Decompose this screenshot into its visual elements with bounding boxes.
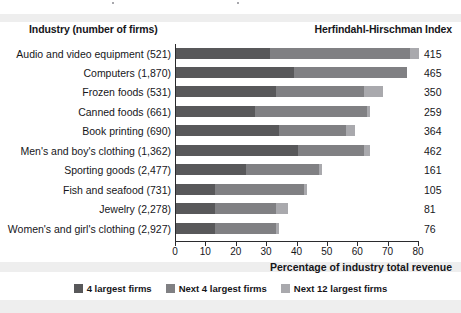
x-axis-tick-label: 60 xyxy=(345,246,369,257)
stacked-bar xyxy=(176,67,407,78)
legend-label: Next 12 largest firms xyxy=(294,283,387,294)
bar-segment-2 xyxy=(215,184,303,195)
table-row: Book printing (690)364 xyxy=(0,123,461,142)
x-axis-label: Percentage of industry total revenue xyxy=(270,261,452,273)
bar-segment-1 xyxy=(176,223,215,234)
bar-segment-3 xyxy=(304,184,307,195)
column-header-hhi: Herfindahl-Hirschman Index xyxy=(315,23,452,38)
bar-segment-2 xyxy=(279,125,346,136)
row-label-industry: Audio and video equipment (521) xyxy=(16,49,171,60)
bar-segment-2 xyxy=(255,106,367,117)
bar-segment-2 xyxy=(294,67,406,78)
stacked-bar xyxy=(176,86,383,97)
bar-segment-2 xyxy=(246,164,319,175)
bar-segment-3 xyxy=(367,106,370,117)
x-axis-tick-label: 50 xyxy=(315,246,339,257)
table-row: Men's and boy's clothing (1,362)462 xyxy=(0,143,461,162)
row-value-hhi: 259 xyxy=(424,107,457,118)
bar-segment-3 xyxy=(276,203,288,214)
row-label-industry: Jewelry (2,278) xyxy=(99,204,171,215)
stacked-bar xyxy=(176,184,307,195)
background-band-footer xyxy=(0,300,461,313)
bar-segment-1 xyxy=(176,184,215,195)
legend-label: 4 largest firms xyxy=(87,283,152,294)
stacked-bar xyxy=(176,164,322,175)
legend-label: Next 4 largest firms xyxy=(179,283,267,294)
row-value-hhi: 105 xyxy=(424,185,457,196)
cropped-title-strip xyxy=(0,0,461,14)
row-label-industry: Fish and seafood (731) xyxy=(63,185,171,196)
bar-segment-2 xyxy=(298,145,365,156)
bar-segment-1 xyxy=(176,145,298,156)
legend-item: Next 4 largest firms xyxy=(166,283,267,294)
legend-item: 4 largest firms xyxy=(74,283,152,294)
table-row: Frozen foods (531)350 xyxy=(0,84,461,103)
row-label-industry: Canned foods (661) xyxy=(78,107,171,118)
x-axis-tick-label: 70 xyxy=(376,246,400,257)
stacked-bar xyxy=(176,125,355,136)
bar-segment-1 xyxy=(176,86,276,97)
bar-segment-2 xyxy=(276,86,364,97)
bar-segment-1 xyxy=(176,164,246,175)
stacked-bar xyxy=(176,203,288,214)
row-value-hhi: 415 xyxy=(424,49,457,60)
row-value-hhi: 81 xyxy=(424,204,457,215)
bar-segment-3 xyxy=(276,223,279,234)
bar-segment-2 xyxy=(215,223,276,234)
table-row: Women's and girl's clothing (2,927)76 xyxy=(0,221,461,240)
x-axis-tick-label: 10 xyxy=(193,246,217,257)
background-band-top xyxy=(0,14,461,22)
bar-segment-3 xyxy=(346,125,355,136)
table-row: Sporting goods (2,477)161 xyxy=(0,162,461,181)
bar-segment-1 xyxy=(176,67,294,78)
chart-legend: 4 largest firmsNext 4 largest firmsNext … xyxy=(0,283,461,294)
table-row: Fish and seafood (731)105 xyxy=(0,182,461,201)
legend-swatch-icon xyxy=(281,284,290,293)
row-label-industry: Computers (1,870) xyxy=(83,68,171,79)
row-value-hhi: 350 xyxy=(424,87,457,98)
bar-segment-1 xyxy=(176,106,255,117)
row-value-hhi: 364 xyxy=(424,126,457,137)
row-value-hhi: 161 xyxy=(424,165,457,176)
stacked-bar xyxy=(176,106,370,117)
bar-segment-1 xyxy=(176,125,279,136)
stacked-bar xyxy=(176,145,370,156)
legend-item: Next 12 largest firms xyxy=(281,283,387,294)
bar-segment-3 xyxy=(364,145,370,156)
legend-swatch-icon xyxy=(74,284,83,293)
x-axis-tick-label: 0 xyxy=(163,246,187,257)
concentration-chart: Industry (number of firms) Herfindahl-Hi… xyxy=(0,0,461,313)
column-header-industry: Industry (number of firms) xyxy=(29,23,158,38)
row-value-hhi: 462 xyxy=(424,146,457,157)
row-label-industry: Men's and boy's clothing (1,362) xyxy=(20,146,171,157)
table-row: Audio and video equipment (521)415 xyxy=(0,46,461,65)
x-axis-tick-label: 20 xyxy=(224,246,248,257)
bar-segment-3 xyxy=(364,86,382,97)
table-row: Jewelry (2,278)81 xyxy=(0,201,461,220)
legend-swatch-icon xyxy=(166,284,175,293)
table-row: Canned foods (661)259 xyxy=(0,104,461,123)
x-axis-tick-label: 80 xyxy=(406,246,430,257)
bar-segment-3 xyxy=(410,48,419,59)
stacked-bar xyxy=(176,48,419,59)
bar-segment-1 xyxy=(176,48,270,59)
table-row: Computers (1,870)465 xyxy=(0,65,461,84)
bar-segment-2 xyxy=(215,203,276,214)
row-value-hhi: 76 xyxy=(424,224,457,235)
bar-segment-2 xyxy=(270,48,410,59)
x-axis-tick-label: 30 xyxy=(254,246,278,257)
row-value-hhi: 465 xyxy=(424,68,457,79)
x-axis-tick-label: 40 xyxy=(285,246,309,257)
title-fragment-mark xyxy=(112,2,114,4)
row-label-industry: Sporting goods (2,477) xyxy=(64,165,171,176)
stacked-bar xyxy=(176,223,279,234)
row-label-industry: Book printing (690) xyxy=(82,126,171,137)
bar-segment-1 xyxy=(176,203,215,214)
bar-segment-3 xyxy=(319,164,322,175)
title-fragment-mark xyxy=(237,2,239,4)
row-label-industry: Frozen foods (531) xyxy=(82,87,171,98)
row-label-industry: Women's and girl's clothing (2,927) xyxy=(8,224,171,235)
